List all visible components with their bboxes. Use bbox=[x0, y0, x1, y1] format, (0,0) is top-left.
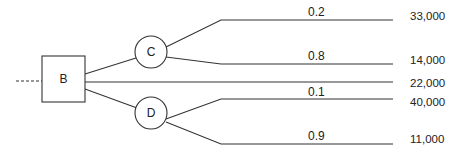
edge-b-to-c bbox=[85, 58, 136, 74]
probability-label: 0.2 bbox=[308, 5, 325, 19]
probability-label: 0.1 bbox=[308, 85, 325, 99]
edge-c-branch-2 bbox=[166, 57, 393, 64]
payoff-value: 40,000 bbox=[410, 96, 445, 108]
decision-tree-diagram: B C D 0.2 0.8 0.1 0.9 33,000 14,000 22,0… bbox=[0, 0, 460, 161]
edge-b-to-d bbox=[85, 89, 137, 108]
probability-label: 0.9 bbox=[308, 129, 325, 143]
payoff-value: 33,000 bbox=[410, 10, 445, 22]
payoff-value: 14,000 bbox=[410, 54, 445, 66]
payoff-value: 22,000 bbox=[410, 77, 445, 89]
edge-d-branch-1 bbox=[166, 99, 393, 119]
chance-node-c-label: C bbox=[147, 45, 156, 59]
chance-node-d-label: D bbox=[147, 106, 156, 120]
payoff-value: 11,000 bbox=[410, 133, 444, 145]
decision-node-label: B bbox=[59, 72, 67, 86]
edge-c-branch-1 bbox=[166, 20, 393, 47]
probability-label: 0.8 bbox=[308, 49, 325, 63]
edge-d-branch-2 bbox=[166, 122, 393, 144]
